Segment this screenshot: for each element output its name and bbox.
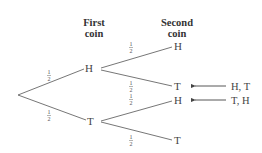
prob-root-h: 1 2 bbox=[47, 69, 51, 82]
svg-text:2: 2 bbox=[48, 116, 51, 122]
branch-root-to-h bbox=[18, 69, 84, 95]
svg-text:1: 1 bbox=[48, 69, 51, 75]
svg-text:1: 1 bbox=[130, 41, 133, 47]
outcome-label-ht: H, T bbox=[231, 81, 251, 92]
node-second-tt: T bbox=[174, 134, 181, 146]
svg-text:2: 2 bbox=[130, 48, 133, 54]
svg-text:1: 1 bbox=[130, 134, 133, 140]
branch-root-to-t bbox=[18, 95, 86, 120]
prob-h-h: 1 2 bbox=[129, 41, 133, 54]
branch-t-to-h bbox=[101, 101, 172, 121]
node-second-hh: H bbox=[174, 40, 182, 52]
svg-text:1: 1 bbox=[130, 80, 133, 86]
prob-h-t: 1 2 bbox=[129, 80, 133, 93]
svg-text:2: 2 bbox=[48, 76, 51, 82]
branch-h-to-h bbox=[101, 47, 172, 68]
svg-text:2: 2 bbox=[130, 141, 133, 147]
prob-root-t: 1 2 bbox=[47, 109, 51, 122]
prob-t-h: 1 2 bbox=[129, 93, 133, 106]
svg-text:1: 1 bbox=[48, 109, 51, 115]
tree-diagram: H T 1 2 1 2 H T H T 1 2 1 2 1 2 1 2 bbox=[0, 0, 262, 153]
svg-text:2: 2 bbox=[130, 100, 133, 106]
branch-h-to-t bbox=[101, 70, 172, 86]
branch-t-to-t bbox=[101, 122, 172, 140]
node-second-th: H bbox=[174, 94, 182, 106]
outcome-label-th: T, H bbox=[231, 95, 250, 106]
prob-t-t: 1 2 bbox=[129, 134, 133, 147]
node-second-ht: T bbox=[174, 80, 181, 92]
node-first-h: H bbox=[85, 62, 93, 74]
svg-text:1: 1 bbox=[130, 93, 133, 99]
node-first-t: T bbox=[87, 115, 94, 127]
